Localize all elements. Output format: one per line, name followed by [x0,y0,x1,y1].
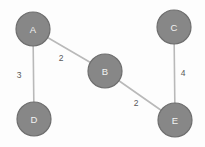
edge-weight-label-a-b: 2 [59,53,64,63]
node-label-d: D [31,114,38,125]
nodes-group: ABCDE [16,10,192,137]
node-label-e: E [172,115,178,126]
graph-node-a[interactable]: A [16,12,50,46]
graph-node-c[interactable]: C [157,10,191,44]
graph-node-d[interactable]: D [17,102,51,136]
edge-weight-label-c-e: 4 [181,68,186,78]
node-label-b: B [102,66,108,77]
graph-canvas: 3224 ABCDE [0,0,205,147]
graph-node-e[interactable]: E [158,103,192,137]
graph-diagram: 3224 ABCDE [0,0,205,147]
node-label-c: C [171,22,178,33]
edge-weight-label-a-d: 3 [17,70,22,80]
edge-weight-label-b-e: 2 [134,98,139,108]
graph-node-b[interactable]: B [88,54,122,88]
node-label-a: A [30,24,37,35]
